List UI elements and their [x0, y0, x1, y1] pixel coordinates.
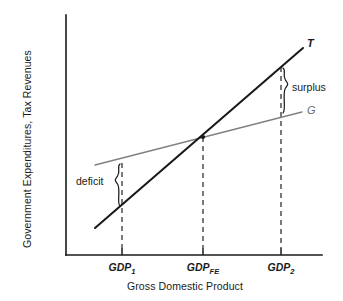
- deficit-brace-icon: [115, 164, 120, 206]
- deficit-label: deficit: [76, 176, 103, 187]
- x-tick-label-gdp2: GDP2: [257, 262, 305, 276]
- intersection-point: [201, 135, 205, 139]
- x-tick-label-gdpfe: GDPFE: [176, 262, 230, 276]
- tick-base-gdp2: GDP: [268, 261, 291, 273]
- curve-label-spending: G: [307, 105, 316, 116]
- surplus-brace-icon: [283, 68, 288, 113]
- y-axis-title: Government Expenditures, Tax Revenues: [22, 50, 33, 248]
- curve-label-tax: T: [307, 38, 314, 49]
- economics-budget-chart: Government Expenditures, Tax Revenues Gr…: [0, 0, 343, 301]
- tick-sub-gdp1: 1: [131, 267, 135, 276]
- surplus-label: surplus: [292, 82, 326, 93]
- tick-sub-gdpfe: FE: [210, 267, 220, 276]
- x-axis-title: Gross Domestic Product: [127, 281, 243, 292]
- tax-curve-t: [95, 48, 303, 228]
- tick-base-gdpfe: GDP: [187, 261, 210, 273]
- x-tick-label-gdp1: GDP1: [98, 262, 146, 276]
- tick-sub-gdp2: 2: [290, 267, 294, 276]
- chart-canvas: [0, 0, 343, 301]
- tick-base-gdp1: GDP: [109, 261, 132, 273]
